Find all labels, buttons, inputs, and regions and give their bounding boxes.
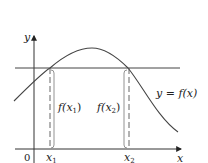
x-axis-label: x (177, 152, 184, 163)
curve-label: y = f(x) (155, 87, 197, 100)
f-x2-label: f(x2) (96, 101, 120, 115)
origin-label: 0 (24, 152, 30, 163)
f-x1-label: f(x1) (57, 101, 81, 115)
function-curve (14, 48, 178, 132)
f-x2-bracket (124, 70, 127, 148)
x2-label: x2 (124, 151, 135, 163)
f-x1-bracket (51, 70, 54, 148)
x1-label: x1 (46, 151, 57, 163)
function-graph-figure: y x 0 x1 x2 f(x1) f(x2) y = f(x) (0, 0, 208, 163)
y-axis-label: y (23, 31, 31, 44)
